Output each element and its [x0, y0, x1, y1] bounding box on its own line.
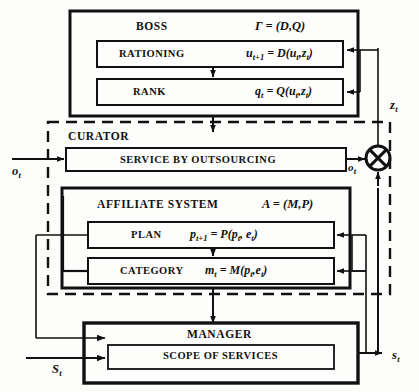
affiliate-system-label: AFFILIATE SYSTEM	[97, 198, 219, 210]
rationing-label: RATIONING	[119, 48, 185, 59]
boss-block	[70, 11, 358, 116]
signal-ot-output: ot	[348, 161, 356, 173]
plan-label: PLAN	[131, 229, 162, 240]
curator-label: CURATOR	[68, 130, 129, 142]
boss-param-text: Γ = (D,Q)	[255, 19, 305, 33]
scope-of-services-label: SCOPE OF SERVICES	[163, 350, 278, 361]
rank-label: RANK	[133, 86, 166, 97]
signal-zt: zt	[390, 98, 398, 113]
signal-st-input: St	[52, 362, 62, 377]
manager-label: MANAGER	[187, 328, 252, 340]
signal-st-output: st	[392, 348, 400, 363]
plan-formula: pt+1 = P(pt, et)	[190, 227, 258, 242]
boss-label: BOSS	[136, 20, 168, 32]
diagram-canvas: BOSS Γ = (D,Q) RATIONING ut+1 = D(ut,zt)…	[0, 0, 419, 392]
rationing-formula: ut+1 = D(ut,zt)	[246, 46, 313, 61]
affiliate-system-param: A = (M,P)	[262, 197, 313, 212]
rank-formula: qt = Q(ut,zt)	[255, 84, 312, 99]
category-formula: mt = M(pt,et)	[205, 263, 267, 278]
service-by-outsourcing-label: SERVICE BY OUTSOURCING	[120, 154, 276, 165]
boss-param: Γ = (D,Q)	[255, 19, 305, 34]
category-label: CATEGORY	[120, 265, 184, 276]
signal-ot-input: ot	[12, 164, 21, 179]
affiliate-system-param-text: A = (M,P)	[262, 197, 313, 211]
